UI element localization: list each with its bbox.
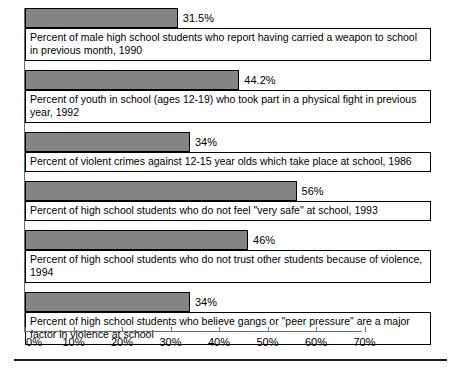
bar [25,8,178,28]
bottom-rule [14,359,447,361]
bar [25,181,297,201]
chart-row: 31.5%Percent of male high school student… [25,8,445,61]
chart-row: 56%Percent of high school students who d… [25,181,445,221]
x-axis-tick [171,327,172,332]
x-axis-tick [316,327,317,332]
x-axis-tick [74,327,75,332]
bar-value-label: 56% [302,182,324,200]
x-axis-line [24,331,362,332]
row-description: Percent of violent crimes against 12-15 … [25,152,431,172]
bar-line: 44.2% [25,70,445,90]
x-axis-tick-label: 40% [208,335,230,349]
bar-value-label: 31.5% [183,9,214,27]
x-axis-tick-label: 30% [159,335,181,349]
x-axis-tick-label: 70% [353,335,375,349]
bar [25,132,190,152]
bar-line: 46% [25,230,445,250]
bar-line: 34% [25,132,445,152]
row-description: Percent of male high school students who… [25,28,431,61]
row-spacer [25,283,445,292]
x-axis-tick-label: 20% [111,335,133,349]
chart-row: 34%Percent of violent crimes against 12-… [25,132,445,172]
bar-line: 31.5% [25,8,445,28]
bar [25,230,248,250]
chart-row: 44.2%Percent of youth in school (ages 12… [25,70,445,123]
plot-area: 31.5%Percent of male high school student… [0,0,455,340]
chart-row: 46%Percent of high school students who d… [25,230,445,283]
bar-value-label: 34% [195,133,217,151]
row-spacer [25,123,445,132]
bar-value-label: 34% [195,293,217,311]
row-description: Percent of high school students who do n… [25,201,431,221]
row-spacer [25,221,445,230]
x-axis-tick [219,327,220,332]
x-axis-tick [268,327,269,332]
row-description: Percent of youth in school (ages 12-19) … [25,90,431,123]
bar [25,292,190,312]
x-axis-tick [122,327,123,332]
row-description: Percent of high school students who do n… [25,250,431,283]
x-axis: 0%10%20%30%40%50%60%70% [0,331,455,361]
x-axis-tick-label: 10% [62,335,84,349]
x-axis-tick-label: 50% [256,335,278,349]
bar-chart: 31.5%Percent of male high school student… [0,0,455,374]
bar-line: 56% [25,181,445,201]
row-spacer [25,172,445,181]
bar-rows: 31.5%Percent of male high school student… [25,8,445,345]
x-axis-tick-label: 0% [26,335,42,349]
bar-value-label: 44.2% [244,71,275,89]
x-axis-tick [365,327,366,332]
x-axis-tick-label: 60% [305,335,327,349]
bar-line: 34% [25,292,445,312]
row-spacer [25,61,445,70]
x-axis-tick [25,327,26,332]
bar-value-label: 46% [253,231,275,249]
bar [25,70,239,90]
